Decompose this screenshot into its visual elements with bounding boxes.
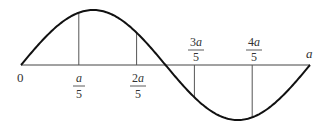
tick-denominator: 5 [251,50,257,64]
end-label: a [306,46,313,61]
tick-denominator: 5 [76,87,82,101]
tick-numerator: 4a [248,35,260,49]
tick-denominator: 5 [135,87,141,101]
tick-label-a-5: a 5 [73,71,85,101]
origin-label: 0 [17,70,24,85]
tick-label-3a-5: 3a 5 [188,35,204,64]
tick-denominator: 5 [193,50,199,64]
tick-label-4a-5: 4a 5 [246,35,262,64]
tick-numerator: 2a [132,71,144,85]
tick-numerator: 3a [190,35,202,49]
tick-numerator: a [76,71,82,85]
tick-label-2a-5: 2a 5 [130,71,146,101]
sine-wave-diagram: 0 a a 5 2a 5 3a 5 4a 5 [0,0,330,138]
